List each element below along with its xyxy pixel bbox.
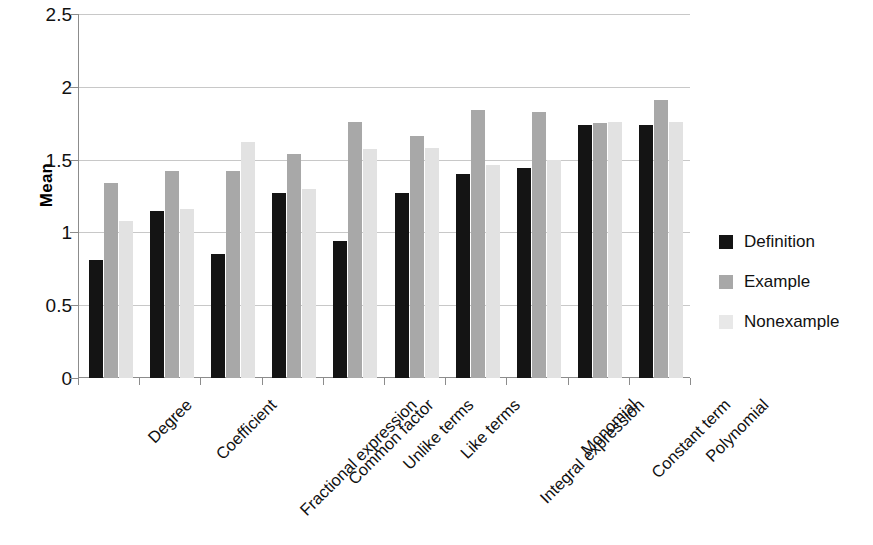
bar-definition [578,125,592,378]
bar-definition [395,193,409,378]
x-tick-mark [690,378,691,385]
x-tick-mark [78,378,79,385]
bar-group [272,14,316,378]
bar-definition [272,193,286,378]
y-tick-mark [70,14,78,15]
bar-example [532,112,546,378]
bar-definition [517,168,531,378]
x-tick-mark [568,378,569,385]
bar-group [89,14,133,378]
bar-nonexample [608,122,622,378]
bar-group [211,14,255,378]
bar-nonexample [486,165,500,378]
legend-label: Nonexample [744,313,839,331]
bar-definition [211,254,225,378]
bar-example [226,171,240,378]
legend-label: Example [744,273,810,291]
bar-definition [456,174,470,378]
bar-nonexample [180,209,194,378]
y-axis-ticks: 00.511.522.5 [0,14,72,378]
bar-group [639,14,683,378]
bar-example [165,171,179,378]
legend-swatch-nonexample-icon [719,315,733,329]
bar-nonexample [669,122,683,378]
legend-item-definition[interactable]: Definition [719,222,869,262]
bar-definition [333,241,347,378]
bar-example [471,110,485,378]
bar-group [333,14,377,378]
x-tick-mark [139,378,140,385]
y-tick-label: 0.5 [10,296,72,315]
legend-swatch-definition-icon [719,235,733,249]
x-axis-label: Monomial [578,396,641,459]
bar-nonexample [119,221,133,378]
y-tick-label: 1 [10,223,72,242]
legend-item-example[interactable]: Example [719,262,869,302]
bar-group [456,14,500,378]
x-tick-mark [200,378,201,385]
bar-example [287,154,301,378]
y-axis-line [78,14,79,378]
bar-nonexample [302,189,316,378]
bar-example [104,183,118,378]
chart-legend: DefinitionExampleNonexample [719,222,869,342]
y-tick-label: 1.5 [10,151,72,170]
bar-example [654,100,668,378]
bar-definition [639,125,653,378]
x-tick-mark [384,378,385,385]
x-axis-labels: DegreeCoefficientFractional expressionCo… [0,386,760,536]
legend-label: Definition [744,233,815,251]
bar-example [348,122,362,378]
y-tick-mark [70,232,78,233]
bar-nonexample [241,142,255,378]
plot-area [78,14,690,378]
bar-chart: Mean 00.511.522.5 DegreeCoefficientFract… [0,0,873,545]
bar-definition [89,260,103,378]
bar-group [517,14,561,378]
x-tick-mark [445,378,446,385]
bar-group [150,14,194,378]
bar-group [578,14,622,378]
bar-nonexample [425,148,439,378]
y-tick-mark [70,160,78,161]
x-tick-mark [629,378,630,385]
x-tick-mark [262,378,263,385]
y-tick-label: 2.5 [10,5,72,24]
bar-example [593,123,607,378]
legend-item-nonexample[interactable]: Nonexample [719,302,869,342]
bar-definition [150,211,164,378]
x-axis-label: Coefficient [213,396,280,463]
bar-nonexample [547,160,561,378]
y-tick-mark [70,87,78,88]
x-axis-label: Degree [144,396,194,446]
x-axis-ticks [78,378,690,386]
bar-nonexample [363,149,377,378]
bar-group [395,14,439,378]
legend-swatch-example-icon [719,275,733,289]
x-tick-mark [506,378,507,385]
y-tick-mark [70,378,78,379]
x-tick-mark [323,378,324,385]
y-tick-label: 2 [10,78,72,97]
bar-example [410,136,424,378]
y-tick-mark [70,305,78,306]
